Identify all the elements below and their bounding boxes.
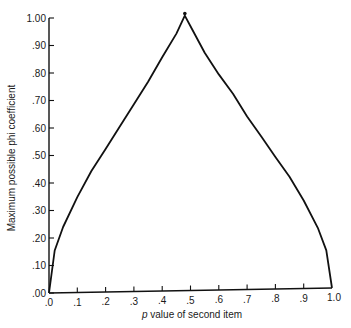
phi-chart: .00.10.20.30.40.50.60.70.80.901.00 .0.1.… xyxy=(0,0,351,328)
x-tick-label: .7 xyxy=(243,294,252,305)
x-tick-label: .1 xyxy=(73,297,82,308)
x-tick-label: .2 xyxy=(101,296,110,307)
x-tick-label: .3 xyxy=(130,296,139,307)
y-tick-label: .30 xyxy=(32,205,46,216)
x-axis: .0.1.2.3.4.5.6.7.8.91.0 xyxy=(45,284,342,309)
x-tick-label: .9 xyxy=(300,293,309,304)
x-tick-label: .6 xyxy=(215,294,224,305)
max-phi-curve xyxy=(49,16,332,293)
y-tick-label: .60 xyxy=(32,123,46,134)
y-axis-title: Maximum possible phi coefficient xyxy=(6,85,17,232)
y-tick-label: 1.00 xyxy=(27,13,47,24)
y-tick-label: .80 xyxy=(32,68,46,79)
x-tick-label: .8 xyxy=(271,293,280,304)
y-axis: .00.10.20.30.40.50.60.70.80.901.00 xyxy=(27,13,54,299)
x-tick-label: .4 xyxy=(158,295,167,306)
y-tick-label: .20 xyxy=(32,233,46,244)
y-tick-label: .50 xyxy=(32,150,46,161)
x-tick-label: .5 xyxy=(186,295,195,306)
peak-point xyxy=(183,12,187,16)
x-axis-title: p value of second item xyxy=(141,309,242,320)
x-tick-label: 1.0 xyxy=(327,292,341,303)
y-tick-label: .90 xyxy=(32,40,46,51)
x-tick-label: .0 xyxy=(45,297,54,308)
y-tick-label: .10 xyxy=(32,260,46,271)
y-tick-label: .40 xyxy=(32,178,46,189)
x-axis-title-rest: value of second item xyxy=(148,309,243,320)
y-tick-label: .70 xyxy=(32,95,46,106)
